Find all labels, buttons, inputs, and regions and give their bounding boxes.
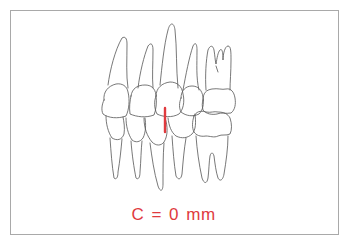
upper-tooth-1 (102, 37, 129, 117)
upper-tooth-5 (202, 46, 235, 114)
lower-tooth-4 (168, 114, 196, 179)
measurement-caption: C = 0 mm (0, 205, 347, 225)
lower-tooth-3 (144, 118, 167, 190)
lower-tooth-2 (126, 118, 146, 179)
upper-tooth-2 (130, 44, 157, 117)
lower-tooth-1 (106, 116, 124, 179)
lower-tooth-5 (193, 111, 232, 182)
